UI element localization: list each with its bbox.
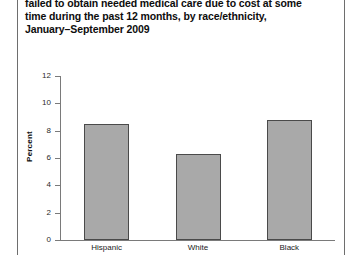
y-tick-8 [55, 131, 60, 132]
y-tick-2 [55, 213, 60, 214]
y-tick-label-0: 0 [21, 236, 51, 244]
bar-white [176, 154, 221, 240]
y-tick-6 [55, 158, 60, 159]
bar-hispanic [84, 124, 129, 240]
y-tick-4 [55, 185, 60, 186]
y-axis-line [60, 76, 61, 241]
y-tick-label-4: 4 [21, 181, 51, 189]
y-tick-0 [55, 240, 60, 241]
bar-black [267, 120, 312, 240]
y-tick-label-6: 6 [21, 154, 51, 162]
y-tick-12 [55, 76, 60, 77]
y-tick-label-8: 8 [21, 127, 51, 135]
x-axis-line [60, 240, 335, 241]
x-axis-label-black: Black [244, 243, 335, 253]
chart-page: failed to obtain needed medical care due… [0, 0, 353, 255]
y-tick-10 [55, 103, 60, 104]
y-tick-label-12: 12 [21, 72, 51, 80]
y-tick-label-2: 2 [21, 209, 51, 217]
y-axis-title: Percent [25, 117, 34, 177]
x-axis-label-white: White [152, 243, 243, 253]
x-axis-label-hispanic: Hispanic [61, 243, 152, 253]
plot-area: Percent 024681012 HispanicWhiteBlack [0, 0, 353, 255]
y-tick-label-10: 10 [21, 99, 51, 107]
